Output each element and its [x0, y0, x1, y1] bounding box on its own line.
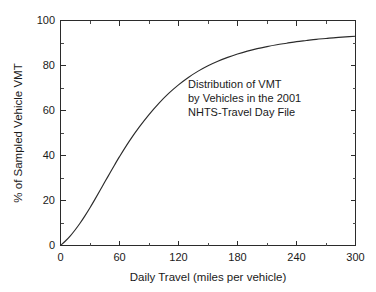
y-axis-title: % of Sampled Vehicle VMT	[12, 63, 24, 202]
x-tick-label-0: 0	[57, 251, 63, 263]
y-tick-label-100: 100	[37, 14, 55, 26]
y-tick-label-80: 80	[43, 59, 55, 71]
y-tick-label-20: 20	[43, 194, 55, 206]
x-axis-title: Daily Travel (miles per vehicle)	[130, 271, 287, 283]
y-tick-label-0: 0	[49, 239, 55, 251]
x-tick-label-180: 180	[228, 251, 246, 263]
plot-frame	[61, 21, 356, 246]
distribution-caption: Distribution of VMT by Vehicles in the 2…	[188, 78, 301, 118]
chart-figure: 0 60 120 180 240 300 0 20 40 60 80 100 D…	[0, 0, 376, 292]
y-tick-label-40: 40	[43, 149, 55, 161]
x-tick-label-240: 240	[287, 251, 305, 263]
x-tick-label-120: 120	[169, 251, 187, 263]
caption-line-2: by Vehicles in the 2001	[188, 92, 301, 104]
x-tick-label-300: 300	[346, 251, 364, 263]
cumulative-vmt-curve	[61, 36, 356, 245]
axis-ticks	[61, 21, 356, 246]
vmt-distribution-chart: 0 60 120 180 240 300 0 20 40 60 80 100 D…	[0, 0, 376, 292]
x-tick-label-60: 60	[113, 251, 125, 263]
caption-line-1: Distribution of VMT	[188, 78, 282, 90]
y-tick-label-60: 60	[43, 104, 55, 116]
caption-line-3: NHTS-Travel Day File	[188, 106, 295, 118]
